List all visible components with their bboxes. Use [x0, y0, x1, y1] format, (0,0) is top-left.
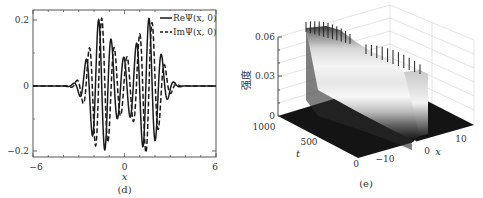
y-tick-label: 0.2: [15, 15, 29, 25]
y-tick-label: −0.2: [7, 146, 29, 156]
figure-caption: (d): [117, 184, 131, 195]
legend: ReΨ(x, 0) ImΨ(x, 0): [158, 11, 217, 38]
chart-panel-d: 0.2 0 −0.2 −6 0 6 x (d) ReΨ(x, 0) ImΨ(x,…: [0, 0, 240, 198]
x-tick-label: −10: [376, 154, 395, 164]
z-tick-label: 0.03: [255, 71, 275, 81]
chart-panel-e: 0.06 0.03 0 强度 1000 500 0 t −10 0 10 x (…: [240, 0, 483, 198]
z-axis-label: 强度: [240, 70, 252, 90]
legend-label-re: ReΨ(x, 0): [173, 13, 217, 23]
line-chart: 0.2 0 −0.2 −6 0 6 x (d) ReΨ(x, 0) ImΨ(x,…: [0, 0, 240, 198]
t-tick-label: 500: [300, 137, 317, 147]
surface-chart: 0.06 0.03 0 强度 1000 500 0 t −10 0 10 x (…: [240, 0, 483, 198]
t-axis-label: t: [296, 148, 301, 159]
x-tick-label: 10: [455, 134, 467, 144]
series-re-line: [33, 19, 216, 150]
x-tick-label: 6: [212, 162, 218, 172]
legend-label-im: ImΨ(x, 0): [173, 27, 217, 37]
t-tick-label: 0: [353, 159, 359, 169]
z-tick-label: 0: [269, 111, 275, 121]
z-tick-label: 0.06: [255, 32, 275, 42]
y-tick-label: 0: [23, 81, 29, 91]
figure-caption: (e): [359, 178, 373, 189]
x-tick-label: −6: [29, 162, 43, 172]
x-axis-label: x: [435, 146, 441, 157]
t-tick-label: 1000: [253, 122, 276, 132]
x-tick-label: 0: [424, 146, 430, 156]
x-axis-label: x: [122, 171, 128, 182]
